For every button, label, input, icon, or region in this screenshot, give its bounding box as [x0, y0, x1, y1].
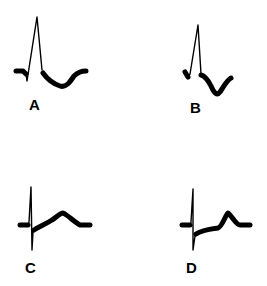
ecg-figure — [0, 0, 267, 286]
panel-label-a: A — [29, 97, 40, 112]
ecg-trace-c — [20, 187, 90, 250]
panel-label-d: D — [186, 260, 197, 275]
ecg-trace-a — [16, 17, 86, 86]
panel-label-b: B — [190, 100, 201, 115]
panel-label-c: C — [25, 260, 36, 275]
ecg-trace-d — [182, 189, 250, 250]
ecg-trace-b — [185, 25, 231, 94]
